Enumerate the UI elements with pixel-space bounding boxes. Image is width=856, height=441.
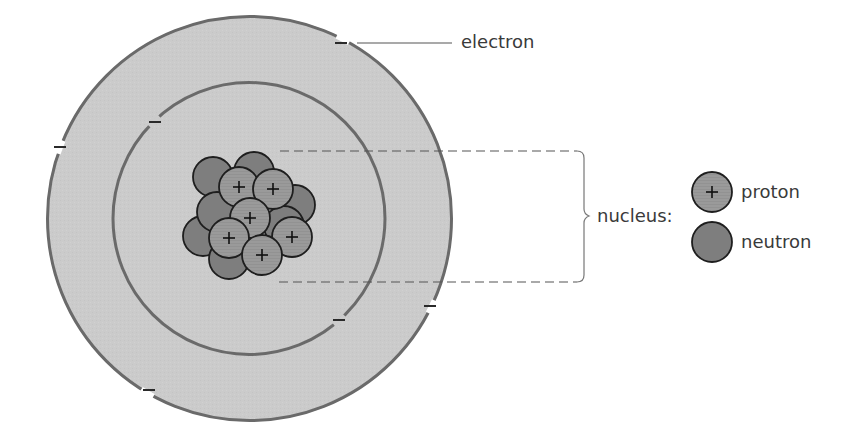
- legend-proton-label: proton: [741, 183, 800, 201]
- electron-label: electron: [461, 33, 535, 51]
- nucleus-label: nucleus:: [597, 207, 673, 225]
- proton-particle: [242, 235, 282, 275]
- atom-illustration: [0, 0, 856, 441]
- atom-diagram: electron nucleus: proton neutron: [0, 0, 856, 441]
- legend: [692, 172, 732, 262]
- legend-neutron-label: neutron: [741, 233, 811, 251]
- legend-neutron-icon: [692, 222, 732, 262]
- nucleus-bracket: [577, 151, 589, 282]
- legend-proton-icon: [692, 172, 732, 212]
